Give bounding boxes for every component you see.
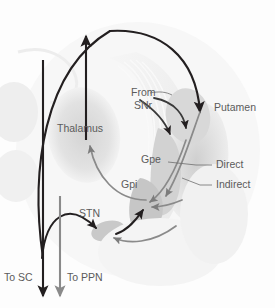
label-gpe: Gpe	[141, 153, 161, 165]
label-snr: SNr	[134, 99, 153, 111]
label-to-sc: To SC	[4, 271, 33, 283]
label-indirect: Indirect	[216, 178, 251, 190]
label-stn: STN	[79, 207, 100, 219]
label-from: From	[131, 86, 156, 98]
label-thalamus: Thalamus	[57, 122, 103, 134]
basal-ganglia-diagram: Thalamus Putamen Gpe Gpi STN From SNr Di…	[0, 0, 275, 308]
label-to-ppn: To PPN	[67, 271, 103, 283]
label-direct: Direct	[216, 158, 244, 170]
label-putamen: Putamen	[214, 101, 256, 113]
label-gpi: Gpi	[121, 178, 137, 190]
